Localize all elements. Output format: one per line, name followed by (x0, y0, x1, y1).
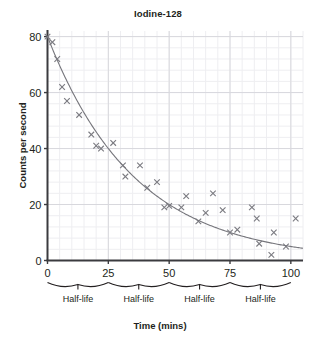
data-point-marker (64, 98, 70, 104)
half-life-labels: Half-lifeHalf-lifeHalf-lifeHalf-life (63, 294, 276, 304)
data-point-marker (271, 230, 277, 236)
grid-major-lines (48, 31, 304, 261)
data-point-marker (256, 241, 262, 247)
data-point-marker (162, 205, 168, 211)
data-point-marker (183, 193, 189, 199)
data-point-marker (50, 39, 56, 45)
data-point-marker (110, 140, 116, 146)
y-tick-label: 60 (29, 87, 41, 99)
data-markers (45, 34, 299, 258)
y-tick-label: 40 (29, 143, 41, 155)
x-tick-label: 50 (163, 267, 175, 279)
chart-figure: Iodine-128 Counts per second Time (mins)… (0, 0, 316, 341)
y-tick-label: 80 (29, 31, 41, 43)
x-tick-label: 100 (282, 267, 300, 279)
y-tick-label: 20 (29, 199, 41, 211)
data-point-marker (220, 207, 226, 213)
data-point-marker (269, 252, 275, 258)
x-tick-label: 0 (44, 267, 50, 279)
data-point-marker (293, 216, 299, 222)
half-life-label: Half-life (123, 294, 154, 304)
half-life-label: Half-life (245, 294, 276, 304)
half-life-braces (48, 283, 291, 290)
data-point-marker (235, 227, 241, 233)
data-point-marker (123, 174, 129, 180)
axis-lines (47, 30, 304, 261)
half-life-label: Half-life (63, 294, 94, 304)
plot-area: 0255075100020406080 Half-lifeHalf-lifeHa… (0, 0, 316, 341)
half-life-label: Half-life (184, 294, 215, 304)
x-tick-label: 25 (102, 267, 114, 279)
fit-curve (48, 37, 304, 249)
grid-minor-lines (48, 31, 304, 261)
x-tick-label: 75 (224, 267, 236, 279)
data-point-marker (137, 163, 143, 169)
tick-labels: 0255075100020406080 (29, 31, 300, 279)
y-tick-label: 0 (35, 255, 41, 267)
axis-ticks (44, 37, 291, 264)
data-point-marker (89, 132, 95, 138)
